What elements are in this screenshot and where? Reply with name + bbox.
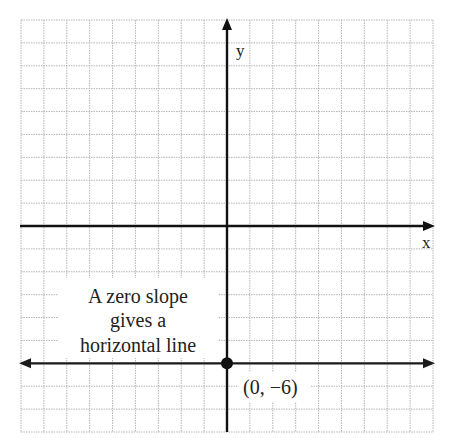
annotation: A zero slope gives a horizontal line (58, 278, 218, 358)
coordinate-plane: x y A zero slope gives a horizontal line… (0, 0, 452, 443)
y-axis-label: y (236, 41, 245, 60)
line-arrow-left-icon (19, 358, 31, 368)
series (19, 357, 435, 369)
data-point (221, 357, 233, 369)
point-label: (0, −6) (243, 376, 298, 399)
x-axis-label: x (422, 233, 431, 252)
annotation-line-3: horizontal line (80, 334, 196, 356)
line-arrow-right-icon (423, 358, 435, 368)
point-label-group: (0, −6) (238, 372, 310, 402)
annotation-line-1: A zero slope (88, 285, 188, 308)
axes (20, 18, 435, 432)
annotation-line-2: gives a (110, 309, 166, 332)
